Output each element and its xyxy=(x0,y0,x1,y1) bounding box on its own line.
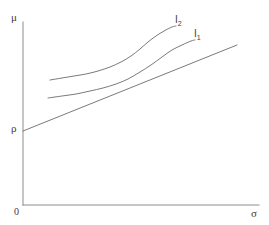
indifference-curve-i1 xyxy=(48,40,195,98)
figure-canvas xyxy=(0,0,269,225)
curve-label-i1: I1 xyxy=(194,29,201,41)
curves-group xyxy=(23,26,237,131)
axes-group xyxy=(23,22,259,205)
capital-market-line xyxy=(23,45,237,131)
indifference-curve-i2 xyxy=(50,26,176,80)
figure-container: μ σ ρ 0 I2 I1 xyxy=(0,0,269,225)
y-axis-label-mu: μ xyxy=(11,12,17,23)
origin-label: 0 xyxy=(14,207,19,217)
x-axis-label-sigma: σ xyxy=(251,208,257,219)
curve-label-i2-subscript: 2 xyxy=(178,20,182,27)
curve-label-i1-subscript: 1 xyxy=(197,34,201,41)
y-axis-intercept-label-rho: ρ xyxy=(11,123,17,134)
curve-label-i2: I2 xyxy=(175,15,182,27)
